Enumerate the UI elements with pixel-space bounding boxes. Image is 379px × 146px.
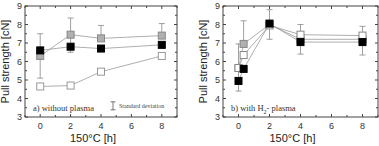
x-tick-label: 2 [68, 121, 73, 131]
y-tick-label: 6 [215, 57, 220, 67]
y-axis-label: Pull strength [cN] [197, 20, 209, 104]
chart-b-svg: 345678902468150°C [h]Pull strength [cN]b… [190, 0, 379, 146]
chart-a-svg: 345678902468150°C [h]Pull strength [cN]a… [0, 0, 190, 146]
y-axis-label: Pull strength [cN] [0, 20, 11, 104]
panel-annotation: a) without plasma [33, 103, 94, 113]
x-tick-label: 6 [329, 121, 334, 131]
x-tick-label: 0 [236, 121, 241, 131]
marker-grey-square [67, 31, 74, 38]
x-tick-label: 6 [129, 121, 134, 131]
x-tick-label: 4 [98, 121, 103, 131]
y-tick-label: 7 [17, 38, 22, 48]
x-axis-label: 150°C [h] [270, 132, 316, 144]
plot-frame [25, 6, 177, 117]
marker-black-square [240, 65, 247, 72]
plot-frame [223, 6, 378, 117]
y-tick-label: 3 [17, 112, 22, 122]
x-tick-label: 4 [298, 121, 303, 131]
y-tick-label: 7 [215, 38, 220, 48]
x-tick-label: 8 [360, 121, 365, 131]
x-axis-label: 150°C [h] [70, 132, 116, 144]
marker-white-square [67, 82, 74, 89]
marker-black-square [37, 47, 44, 54]
chart-panel-b: 345678902468150°C [h]Pull strength [cN]b… [190, 0, 379, 146]
marker-grey-square [240, 40, 247, 47]
y-tick-label: 6 [17, 57, 22, 67]
chart-panel-a: 345678902468150°C [h]Pull strength [cN]a… [0, 0, 190, 146]
marker-white-square [359, 32, 366, 39]
x-tick-label: 2 [267, 121, 272, 131]
x-tick-label: 8 [159, 121, 164, 131]
y-tick-label: 5 [17, 75, 22, 85]
marker-black-square [297, 39, 304, 46]
y-tick-label: 9 [17, 1, 22, 11]
marker-white-square [37, 83, 44, 90]
y-tick-label: 4 [215, 94, 220, 104]
marker-grey-square [158, 32, 165, 39]
marker-white-square [98, 68, 105, 75]
marker-white-square [297, 31, 304, 38]
marker-black-square [67, 43, 74, 50]
y-tick-label: 9 [215, 1, 220, 11]
marker-black-square [235, 77, 242, 84]
y-tick-label: 8 [17, 20, 22, 30]
marker-black-square [359, 39, 366, 46]
panel-annotation: b) with H2- plasma [231, 103, 296, 115]
y-tick-label: 4 [17, 94, 22, 104]
legend-standard-deviation: Standard deviation [119, 103, 164, 109]
marker-white-square [240, 52, 247, 59]
y-tick-label: 3 [215, 112, 220, 122]
marker-black-square [266, 20, 273, 27]
marker-grey-square [98, 35, 105, 42]
annotation-tail: - plasma [267, 103, 296, 113]
y-tick-label: 8 [215, 20, 220, 30]
y-tick-label: 5 [215, 75, 220, 85]
marker-black-square [158, 41, 165, 48]
marker-black-square [98, 45, 105, 52]
marker-white-square [158, 52, 165, 59]
x-tick-label: 0 [38, 121, 43, 131]
